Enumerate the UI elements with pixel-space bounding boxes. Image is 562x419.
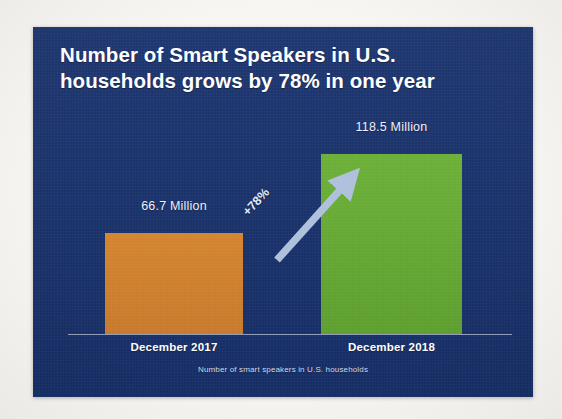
- bar-value-label-2017: 66.7 Million: [105, 199, 243, 213]
- bar-december-2018: [321, 154, 462, 334]
- category-label-december-2018: December 2018: [321, 341, 462, 353]
- bar-december-2017: [105, 233, 243, 334]
- chart-slide: Number of Smart Speakers in U.S. househo…: [33, 27, 533, 397]
- chart-footnote: Number of smart speakers in U.S. househo…: [33, 365, 533, 374]
- plot-area: 66.7 Million 118.5 Million +78% December…: [33, 27, 533, 397]
- bar-value-label-2018: 118.5 Million: [321, 120, 462, 134]
- category-label-december-2017: December 2017: [105, 341, 243, 353]
- axis-baseline: [68, 334, 512, 335]
- growth-arrow-icon: [233, 142, 329, 242]
- photo-page: Number of Smart Speakers in U.S. househo…: [0, 0, 562, 419]
